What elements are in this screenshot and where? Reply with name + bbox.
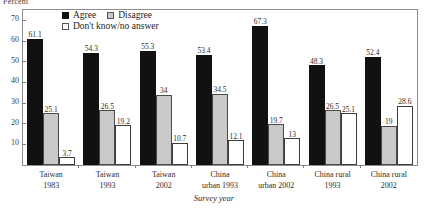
bar-agree[interactable]: 52.4: [365, 57, 381, 165]
bar-agree[interactable]: 67.3: [252, 26, 268, 165]
x-axis-category-label: Taiwan1983: [23, 170, 79, 191]
category-label-line2: urban 2002: [248, 181, 304, 192]
bar-slot: 28.6: [397, 10, 413, 165]
bar-group: 52.41928.6: [361, 10, 417, 165]
bar-dk[interactable]: 19.2: [115, 125, 131, 165]
bar-value-label: 61.1: [29, 31, 42, 39]
category-label-line2: urban 1993: [192, 181, 248, 192]
bar-value-label: 67.3: [254, 18, 267, 26]
bar-value-label: 3.7: [62, 150, 71, 158]
bar-value-label: 26.5: [326, 103, 339, 111]
bar-slot: 54.3: [83, 10, 99, 165]
bar-group: 67.319.713: [248, 10, 304, 165]
category-label-line1: China rural: [314, 170, 350, 179]
x-axis-tick-mark: [135, 165, 136, 168]
category-label-line1: Taiwan: [152, 170, 175, 179]
bar-dk[interactable]: 12.1: [228, 140, 244, 165]
bar-value-label: 25.1: [45, 106, 58, 114]
x-axis-title: Survey year: [0, 193, 428, 203]
y-axis-tick-label: 30: [0, 97, 19, 106]
x-axis-tick-mark: [360, 165, 361, 168]
bar-slot: 13: [284, 10, 300, 165]
y-axis-tick-label: 50: [0, 56, 19, 65]
bar-slot: 34.5: [212, 10, 228, 165]
bar-value-label: 54.3: [85, 45, 98, 53]
x-axis-category-label: Taiwan1993: [79, 170, 135, 191]
bar-disagree[interactable]: 19: [381, 126, 397, 165]
bar-value-label: 26.5: [101, 103, 114, 111]
x-axis-category-label: China rural1993: [304, 170, 360, 191]
bar-dk[interactable]: 10.7: [172, 143, 188, 165]
category-label-line1: China: [267, 170, 286, 179]
bar-group: 54.326.519.2: [79, 10, 135, 165]
bar-dk[interactable]: 28.6: [397, 106, 413, 165]
bar-dk[interactable]: 3.7: [59, 157, 75, 165]
y-axis-tick-label: 40: [0, 76, 19, 85]
bar-disagree[interactable]: 26.5: [325, 110, 341, 165]
bar-agree[interactable]: 61.1: [27, 39, 43, 165]
bar-slot: 19: [381, 10, 397, 165]
bar-slot: 12.1: [228, 10, 244, 165]
bar-group: 61.125.13.7: [23, 10, 79, 165]
bar-dk[interactable]: 25.1: [341, 113, 357, 165]
bar-slot: 19.7: [268, 10, 284, 165]
bar-value-label: 34.5: [213, 86, 226, 94]
bar-group: 53.434.512.1: [192, 10, 248, 165]
bar-value-label: 55.3: [141, 43, 154, 51]
bar-value-label: 52.4: [366, 49, 379, 57]
bar-slot: 25.1: [341, 10, 357, 165]
bar-value-label: 13: [289, 131, 297, 139]
bar-slot: 10.7: [172, 10, 188, 165]
bar-value-label: 12.1: [229, 133, 242, 141]
bar-disagree[interactable]: 26.5: [99, 110, 115, 165]
bar-value-label: 28.6: [398, 98, 411, 106]
y-axis-tick-label: 20: [0, 118, 19, 127]
x-axis-tick-mark: [247, 165, 248, 168]
bar-disagree[interactable]: 34.5: [212, 94, 228, 165]
bar-slot: 19.2: [115, 10, 131, 165]
x-axis-category-label: Chinaurban 1993: [192, 170, 248, 191]
category-label-line2: 1983: [23, 181, 79, 192]
category-label-line1: China rural: [371, 170, 407, 179]
bar-group: 55.33410.7: [136, 10, 192, 165]
bar-slot: 34: [156, 10, 172, 165]
bar-slot: 26.5: [99, 10, 115, 165]
bar-slot: 55.3: [140, 10, 156, 165]
x-axis-category-label: Taiwan2002: [136, 170, 192, 191]
bar-agree[interactable]: 55.3: [140, 51, 156, 165]
bar-slot: 52.4: [365, 10, 381, 165]
bar-slot: 48.3: [309, 10, 325, 165]
bar-slot: 67.3: [252, 10, 268, 165]
bar-slot: 61.1: [27, 10, 43, 165]
bar-value-label: 25.1: [342, 106, 355, 114]
category-label-line2: 1993: [79, 181, 135, 192]
y-axis-tick-label: 60: [0, 35, 19, 44]
bar-disagree[interactable]: 25.1: [43, 113, 59, 165]
bar-agree[interactable]: 53.4: [196, 55, 212, 165]
category-label-line2: 2002: [136, 181, 192, 192]
y-axis-tick-label: 10: [0, 138, 19, 147]
bar-agree[interactable]: 48.3: [309, 65, 325, 165]
bar-agree[interactable]: 54.3: [83, 53, 99, 165]
bar-disagree[interactable]: 19.7: [268, 124, 284, 165]
y-axis-tick-label: 70: [0, 14, 19, 23]
category-label-line1: China: [210, 170, 229, 179]
bar-slot: 3.7: [59, 10, 75, 165]
bar-value-label: 19: [385, 118, 393, 126]
bar-value-label: 10.7: [173, 135, 186, 143]
bar-value-label: 34: [160, 87, 168, 95]
bar-value-label: 19.2: [117, 118, 130, 126]
bar-value-label: 53.4: [197, 47, 210, 55]
plot-area: 61.125.13.754.326.519.255.33410.753.434.…: [23, 10, 417, 165]
x-axis-tick-mark: [191, 165, 192, 168]
bar-dk[interactable]: 13: [284, 138, 300, 165]
bar-value-label: 48.3: [310, 58, 323, 66]
bar-slot: 25.1: [43, 10, 59, 165]
bar-disagree[interactable]: 34: [156, 95, 172, 165]
bar-chart: Percent 10203040506070 Agree Disagree Do…: [0, 0, 428, 213]
x-axis-category-label: Chinaurban 2002: [248, 170, 304, 191]
y-axis-title: Percent: [3, 0, 28, 6]
category-label-line1: Taiwan: [96, 170, 119, 179]
x-axis-category-label: China rural2002: [361, 170, 417, 191]
x-axis-tick-mark: [78, 165, 79, 168]
